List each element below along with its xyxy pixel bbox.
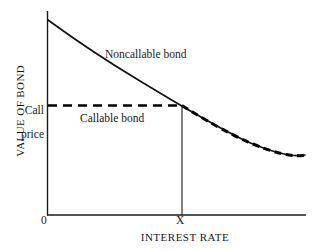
noncallable-bond-curve-label: Noncallable bond (105, 48, 186, 60)
callable-bond-overlay-segment (182, 106, 305, 156)
bond-value-chart: VALUE OF BOND INTEREST RATE 0 X Call pri… (0, 0, 320, 251)
call-price-label-line2: price (0, 128, 44, 140)
call-price-axis-label: Call price (0, 92, 44, 164)
chart-plot-area (0, 0, 320, 251)
origin-tick-label: 0 (41, 214, 47, 226)
callable-bond-curve-label: Callable bond (80, 112, 144, 124)
call-price-label-line1: Call (25, 104, 44, 116)
x-axis-tick-label-strike: X (176, 214, 184, 226)
x-axis-title: INTEREST RATE (110, 232, 260, 244)
noncallable-bond-curve (48, 20, 305, 156)
